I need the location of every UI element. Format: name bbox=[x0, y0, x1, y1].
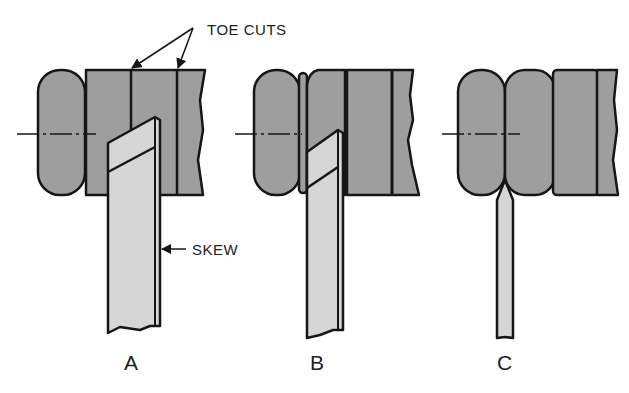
stock-cylinder bbox=[347, 70, 419, 195]
bead-rounded bbox=[458, 70, 505, 195]
panel-label-c: C bbox=[497, 351, 512, 374]
toe-cuts-arrow-1 bbox=[132, 28, 193, 68]
stock-section bbox=[553, 70, 598, 195]
skew-label: SKEW bbox=[192, 241, 239, 258]
panel-b: B bbox=[235, 70, 419, 374]
panel-c: C bbox=[442, 70, 618, 374]
stock-end bbox=[597, 70, 618, 195]
panel-a: TOE CUTS SKEW A bbox=[17, 21, 287, 374]
bead-rounded bbox=[254, 70, 300, 195]
toe-cuts-arrow-2 bbox=[178, 28, 193, 68]
panel-label-b: B bbox=[310, 351, 324, 374]
bead-turning-diagram: TOE CUTS SKEW A B C bbox=[0, 0, 629, 393]
bead-rounded bbox=[38, 70, 85, 195]
bead-rounded-2 bbox=[505, 70, 555, 195]
parting-tool bbox=[497, 180, 513, 338]
toe-cuts-label: TOE CUTS bbox=[207, 21, 287, 38]
panel-label-a: A bbox=[124, 351, 138, 374]
